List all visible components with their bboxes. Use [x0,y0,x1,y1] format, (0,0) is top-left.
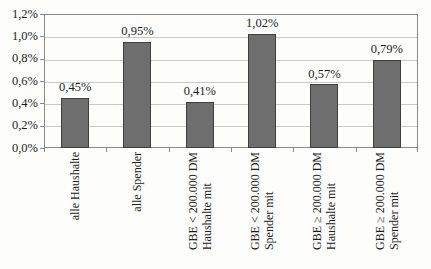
x-axis-tick-label: Haushalte mit GBE ≥ 200.000 DM [310,152,338,250]
bar-value-label: 1,02% [231,17,293,30]
x-label-line: GBE < 200.000 DM [186,152,200,250]
x-axis-tick-label: Spender mit GBE < 200.000 DM [248,152,276,250]
y-axis: 1,2% 1,0% 0,8% 0,6% 0,4% 0,2% 0,0% [0,0,40,269]
x-label-line: Haushalte mit [324,152,338,250]
x-label-slot: Spender mit GBE ≥ 200.000 DM [356,152,418,269]
x-axis-tick-label: alle Haushalte [68,152,82,220]
y-tick-label: 0,2% [0,119,38,132]
bar-slot: 0,41% [169,14,231,148]
bar-value-label: 0,45% [44,81,106,94]
x-axis-tick-label: alle Spender [130,152,144,212]
bar-slot: 0,57% [293,14,355,148]
bar [123,42,151,148]
x-label-line: Haushalte mit [200,152,214,250]
y-tick-label: 1,0% [0,30,38,43]
bar-slot: 0,79% [356,14,418,148]
y-tick-label: 0,8% [0,52,38,65]
bar [186,102,214,148]
x-label-slot: alle Haushalte [44,152,106,269]
x-label-slot: Spender mit GBE < 200.000 DM [231,152,293,269]
bar-value-label: 0,41% [169,85,231,98]
bar-slot: 0,45% [44,14,106,148]
x-axis-tick-label: Haushalte mit GBE < 200.000 DM [186,152,214,250]
bar-value-label: 0,79% [356,43,418,56]
bar-value-label: 0,95% [106,25,168,38]
x-label-slot: Haushalte mit GBE < 200.000 DM [169,152,231,269]
bar [248,34,276,148]
x-label-line: Spender mit [262,152,276,250]
x-axis-tick-label: Spender mit GBE ≥ 200.000 DM [373,152,401,250]
y-tick-label: 0,6% [0,75,38,88]
x-label-line: alle Spender [130,152,144,212]
x-label-line: GBE ≥ 200.000 DM [310,152,324,250]
bar [373,60,401,148]
y-tick-label: 0,0% [0,142,38,155]
bar [61,98,89,148]
x-label-line: GBE < 200.000 DM [248,152,262,250]
x-label-line: Spender mit [387,152,401,250]
x-label-slot: Haushalte mit GBE ≥ 200.000 DM [293,152,355,269]
bar-slot: 0,95% [106,14,168,148]
bar [310,84,338,148]
x-axis-labels: alle Haushalte alle Spender Haushalte mi… [44,152,418,269]
y-tick-label: 1,2% [0,8,38,21]
x-label-line: GBE ≥ 200.000 DM [373,152,387,250]
bar-value-label: 0,57% [293,68,355,81]
bar-chart: 1,2% 1,0% 0,8% 0,6% 0,4% 0,2% 0,0% 0,45%… [0,0,431,269]
bar-slot: 1,02% [231,14,293,148]
bars-layer: 0,45% 0,95% 0,41% 1,02% 0,57% 0,79% [44,14,418,148]
x-label-line: alle Haushalte [68,152,82,220]
y-tick-label: 0,4% [0,97,38,110]
x-label-slot: alle Spender [106,152,168,269]
